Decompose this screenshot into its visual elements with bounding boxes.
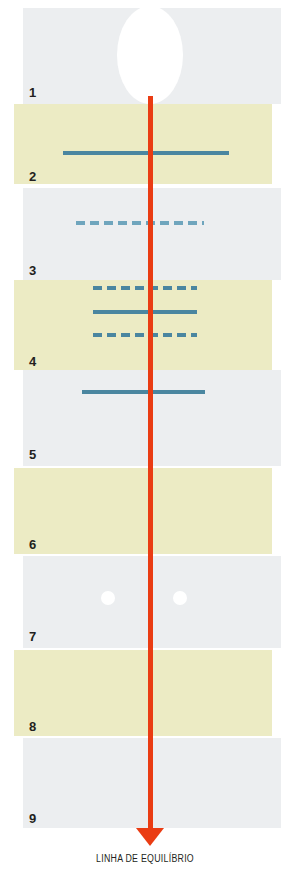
caption-label: LINHA DE EQUILÍBRIO <box>17 853 272 864</box>
band-label-3: 3 <box>29 264 36 277</box>
band-4 <box>14 280 272 370</box>
band-label-9: 9 <box>29 812 36 825</box>
equilibrium-line <box>148 96 153 833</box>
band-8 <box>14 650 272 736</box>
band-6 <box>14 468 272 554</box>
top-white-ellipse <box>117 6 183 104</box>
equilibrium-line-diagram: 123456789 LINHA DE EQUILÍBRIO <box>0 0 290 880</box>
marker-solid-band-2 <box>63 151 229 155</box>
arrow-down-icon <box>136 828 164 846</box>
marker-solid-band-4 <box>93 310 197 314</box>
band-label-6: 6 <box>29 538 36 551</box>
band-label-8: 8 <box>29 720 36 733</box>
white-dot-band-7 <box>101 591 115 605</box>
marker-dashed-light-band-3 <box>76 221 204 225</box>
band-label-7: 7 <box>29 630 36 643</box>
marker-dashed-band-4 <box>93 286 197 290</box>
band-label-1: 1 <box>29 86 36 99</box>
band-label-4: 4 <box>29 355 36 368</box>
marker-dashed-band-4 <box>93 333 197 337</box>
band-label-5: 5 <box>29 448 36 461</box>
band-label-2: 2 <box>29 170 36 183</box>
band-2 <box>14 104 272 184</box>
white-dot-band-7 <box>173 591 187 605</box>
marker-solid-band-5 <box>82 390 205 394</box>
